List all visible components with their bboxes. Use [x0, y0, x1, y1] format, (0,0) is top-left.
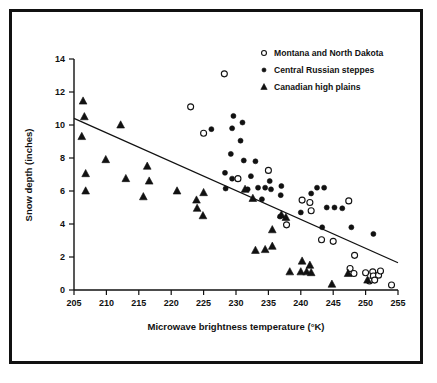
marker-filled-triangle [261, 84, 267, 90]
axes-group [74, 59, 398, 290]
y-tick-label-0: 0 [60, 285, 65, 295]
marker-filled-circle [230, 176, 235, 181]
marker-filled-circle [263, 185, 268, 190]
marker-filled-triangle [143, 162, 151, 169]
scatter-plot: 205210215220225230235240245250255 024681… [12, 12, 420, 361]
marker-filled-triangle [261, 245, 269, 252]
marker-open-circle [389, 282, 395, 288]
marker-filled-circle [209, 127, 214, 132]
marker-filled-triangle [268, 242, 276, 249]
marker-filled-triangle [79, 97, 87, 104]
x-tick-label-220: 220 [164, 298, 179, 308]
marker-open-circle [284, 222, 290, 228]
marker-open-circle [221, 71, 227, 77]
marker-filled-triangle [249, 194, 257, 201]
marker-filled-circle [230, 126, 235, 131]
marker-filled-triangle [286, 268, 294, 275]
marker-filled-circle [222, 170, 227, 175]
marker-filled-circle [256, 185, 261, 190]
marker-filled-circle [324, 205, 329, 210]
y-tick-label-8: 8 [60, 153, 65, 163]
marker-filled-circle [320, 225, 325, 230]
marker-filled-circle [309, 191, 314, 196]
marker-filled-triangle [306, 261, 314, 268]
marker-filled-circle [240, 120, 245, 125]
marker-filled-triangle [268, 226, 276, 233]
marker-filled-triangle [193, 204, 201, 211]
marker-open-circle [346, 198, 352, 204]
legend-item-2: Canadian high plains [261, 82, 361, 92]
x-axis-ticks: 205210215220225230235240245250255 [66, 290, 405, 308]
legend-item-0: Montana and North Dakota [262, 48, 384, 58]
series-canadian-high-plains [78, 97, 371, 287]
x-tick-label-250: 250 [358, 298, 373, 308]
x-tick-label-235: 235 [261, 298, 276, 308]
marker-filled-circle [278, 193, 283, 198]
x-tick-label-210: 210 [99, 298, 114, 308]
marker-filled-triangle [145, 177, 153, 184]
x-tick-label-240: 240 [293, 298, 308, 308]
x-tick-label-255: 255 [390, 298, 405, 308]
marker-open-circle [188, 104, 194, 110]
marker-filled-triangle [173, 187, 181, 194]
y-tick-label-12: 12 [55, 87, 65, 97]
marker-filled-circle [267, 179, 272, 184]
marker-filled-triangle [102, 155, 110, 162]
marker-open-circle [265, 167, 271, 173]
marker-filled-circle [315, 185, 320, 190]
marker-open-circle [372, 277, 378, 283]
marker-filled-circle [241, 158, 246, 163]
marker-filled-triangle [78, 132, 86, 139]
y-tick-label-4: 4 [60, 219, 65, 229]
marker-open-circle [352, 252, 358, 258]
marker-filled-circle [253, 159, 258, 164]
marker-open-circle [378, 268, 384, 274]
marker-filled-triangle [252, 246, 260, 253]
legend-item-1: Central Russian steppes [262, 65, 375, 75]
marker-open-circle [308, 208, 314, 214]
y-tick-label-14: 14 [55, 54, 65, 64]
marker-filled-circle [248, 174, 253, 179]
marker-filled-circle [259, 197, 264, 202]
marker-open-circle [307, 200, 313, 206]
marker-open-circle [299, 197, 305, 203]
marker-filled-circle [228, 151, 233, 156]
marker-filled-circle [279, 184, 284, 189]
marker-filled-triangle [81, 113, 89, 120]
marker-filled-circle [238, 138, 243, 143]
marker-filled-circle [340, 206, 345, 211]
marker-filled-triangle [82, 169, 90, 176]
marker-open-circle [319, 237, 325, 243]
series-montana-and-north-dakota [188, 71, 395, 288]
legend-label: Central Russian steppes [274, 65, 375, 75]
marker-filled-circle [268, 187, 273, 192]
marker-filled-circle [349, 225, 354, 230]
y-axis-title: Snow depth (inches) [23, 129, 34, 222]
figure-frame: 205210215220225230235240245250255 024681… [9, 9, 423, 364]
x-axis-title: Microwave brightness temperature (°K) [148, 321, 325, 332]
marker-filled-circle [231, 113, 236, 118]
marker-filled-circle [371, 231, 376, 236]
marker-open-circle [262, 51, 267, 56]
marker-filled-circle [332, 205, 337, 210]
x-tick-label-225: 225 [196, 298, 211, 308]
x-tick-label-230: 230 [228, 298, 243, 308]
marker-filled-triangle [328, 280, 336, 287]
marker-filled-triangle [193, 196, 201, 203]
marker-open-circle [330, 238, 336, 244]
marker-filled-circle [262, 68, 266, 72]
marker-filled-triangle [122, 174, 130, 181]
y-tick-label-2: 2 [60, 252, 65, 262]
legend-label: Canadian high plains [274, 82, 361, 92]
marker-filled-circle [223, 186, 228, 191]
marker-filled-triangle [298, 257, 306, 264]
marker-open-circle [363, 270, 369, 276]
series-central-russian-steppes [209, 113, 376, 236]
marker-open-circle [235, 176, 241, 182]
legend-label: Montana and North Dakota [274, 48, 384, 58]
y-tick-label-10: 10 [55, 120, 65, 130]
y-axis-ticks: 02468101214 [55, 54, 74, 295]
marker-filled-circle [298, 210, 303, 215]
marker-filled-triangle [139, 193, 147, 200]
marker-open-circle [201, 130, 207, 136]
